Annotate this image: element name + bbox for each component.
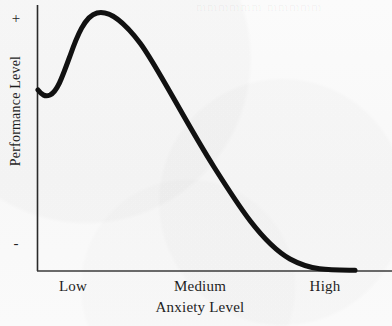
- figure-canvas: mmmmmm mmmmm + - Performance Level Low M…: [0, 0, 392, 326]
- x-axis-title: Anxiety Level: [0, 299, 392, 316]
- x-tick-label-low: Low: [28, 278, 118, 295]
- x-tick-label-medium: Medium: [155, 278, 245, 295]
- y-axis-minus-marker: -: [6, 236, 26, 251]
- performance-curve: [38, 13, 355, 271]
- x-tick-label-high: High: [280, 278, 370, 295]
- y-axis-plus-marker: +: [6, 11, 26, 26]
- y-axis-title: Performance Level: [8, 31, 24, 191]
